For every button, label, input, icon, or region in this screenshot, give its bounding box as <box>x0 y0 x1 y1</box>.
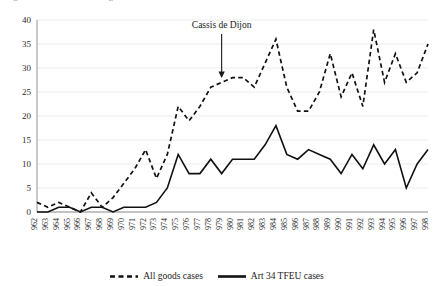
legend-label-art-34-tfeu-cases: Art 34 TFEU cases <box>251 271 324 281</box>
figure-caption: Figure 1. Free movement of goods cases b… <box>0 0 434 3</box>
x-tick-label: 1969 <box>106 218 115 230</box>
x-tick-label: 1978 <box>204 218 213 230</box>
down-arrow-icon <box>218 71 224 78</box>
x-tick-label: 1963 <box>41 218 50 230</box>
x-tick-label: 1967 <box>84 218 93 230</box>
x-tick-label: 1995 <box>388 218 397 230</box>
x-tick-label: 1980 <box>226 218 235 230</box>
gridlines-group <box>37 20 428 212</box>
x-axis-labels: 1962196319641965196619671968196919701971… <box>30 218 430 230</box>
x-tick-label: 1966 <box>73 218 82 230</box>
x-tick-label: 1970 <box>117 218 126 230</box>
x-tick-label: 1968 <box>95 218 104 230</box>
x-tick-label: 1990 <box>334 218 343 230</box>
legend-item-art-34-tfeu-cases[interactable]: Art 34 TFEU cases <box>218 271 324 281</box>
y-axis-labels: 0510152025303540 <box>22 15 32 217</box>
x-tick-label: 1974 <box>160 218 169 230</box>
x-tick-label: 1991 <box>345 218 354 230</box>
x-tick-label: 1993 <box>367 218 376 230</box>
x-tick-label: 1988 <box>312 218 321 230</box>
x-tick-label: 1976 <box>182 218 191 230</box>
y-tick-label: 20 <box>22 111 32 121</box>
x-tick-label: 1989 <box>323 218 332 230</box>
x-tick-label: 1962 <box>30 218 39 230</box>
figure-container: Figure 1. Free movement of goods cases b… <box>0 0 434 286</box>
chart-plot-area: 0510152025303540 19621963196419651966196… <box>0 14 434 230</box>
x-tick-label: 1984 <box>269 218 278 230</box>
x-tick-label: 1965 <box>63 218 72 230</box>
x-tick-label: 1992 <box>356 218 365 230</box>
y-tick-label: 10 <box>22 159 32 169</box>
x-tick-label: 1981 <box>236 218 245 230</box>
annotation-label: Cassis de Dijon <box>192 20 252 30</box>
line-chart: 0510152025303540 19621963196419651966196… <box>0 14 434 230</box>
x-tick-label: 1975 <box>171 218 180 230</box>
x-tick-label: 1987 <box>302 218 311 230</box>
data-series-group <box>37 30 428 212</box>
x-tick-label: 1979 <box>215 218 224 230</box>
annotation-group: Cassis de Dijon <box>192 20 252 78</box>
x-tick-label: 1986 <box>291 218 300 230</box>
x-tick-label: 1972 <box>139 218 148 230</box>
legend-swatch-dashed <box>110 273 138 280</box>
y-tick-label: 35 <box>22 39 32 49</box>
y-tick-label: 15 <box>22 135 32 145</box>
y-tick-label: 30 <box>22 63 32 73</box>
x-tick-label: 1982 <box>247 218 256 230</box>
x-tick-label: 1971 <box>128 218 137 230</box>
y-tick-label: 0 <box>27 207 32 217</box>
series-line-all-goods-cases <box>37 30 428 212</box>
chart-legend: All goods cases Art 34 TFEU cases <box>0 268 434 284</box>
y-tick-label: 40 <box>22 15 32 25</box>
legend-label-all-goods-cases: All goods cases <box>143 271 203 281</box>
y-tick-label: 5 <box>27 183 32 193</box>
legend-swatch-solid <box>218 273 246 280</box>
x-tick-label: 1994 <box>378 218 387 230</box>
x-tick-label: 1964 <box>52 218 61 230</box>
x-tick-label: 1997 <box>410 218 419 230</box>
x-tick-label: 1977 <box>193 218 202 230</box>
x-tick-label: 1996 <box>399 218 408 230</box>
legend-item-all-goods-cases[interactable]: All goods cases <box>110 271 203 281</box>
x-tick-label: 1998 <box>421 218 430 230</box>
x-tick-label: 1973 <box>149 218 158 230</box>
y-tick-label: 25 <box>22 87 32 97</box>
x-tick-label: 1985 <box>280 218 289 230</box>
x-tick-label: 1983 <box>258 218 267 230</box>
